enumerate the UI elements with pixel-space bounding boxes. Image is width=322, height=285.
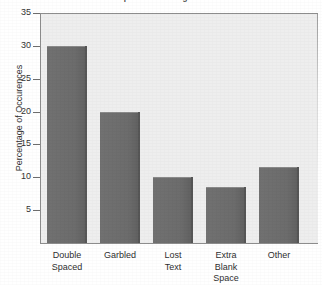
x-tick-label-line: Double: [39, 250, 95, 262]
y-tick-label: 15: [5, 139, 31, 148]
bar-shadow-edge: [191, 177, 193, 243]
y-tick-mark: [33, 46, 40, 47]
x-axis-line: [40, 243, 318, 244]
y-tick-mark: [33, 13, 40, 14]
bar-shadow-edge: [85, 46, 87, 243]
x-tick-label-line: Lost: [145, 250, 201, 262]
x-tick-label: LostText: [145, 250, 201, 273]
x-tick-label-line: Extra: [198, 250, 254, 262]
bar-shadow-edge: [138, 112, 140, 243]
x-tick-label-line: Space: [198, 273, 254, 285]
x-tick-label-line: Blank: [198, 262, 254, 274]
bar-face: [259, 167, 299, 243]
x-tick-label: Other: [251, 250, 307, 262]
y-tick-mark: [33, 177, 40, 178]
y-tick-label: 5: [5, 205, 31, 214]
x-tick-label: ExtraBlankSpace: [198, 250, 254, 285]
y-tick-mark: [33, 210, 40, 211]
x-tick-label: DoubleSpaced: [39, 250, 95, 273]
x-tick-label-line: Spaced: [39, 262, 95, 274]
y-tick-mark: [33, 79, 40, 80]
bar-face: [206, 187, 246, 243]
chart-title: Problems Experienced Using Electronic Ma…: [0, 0, 322, 2]
bar-lost-text: [153, 177, 193, 243]
y-tick-label: 10: [5, 172, 31, 181]
bar-face: [153, 177, 193, 243]
x-tick-label-line: Garbled: [92, 250, 148, 262]
y-tick-mark: [33, 144, 40, 145]
y-tick-label: 30: [5, 41, 31, 50]
bar-other: [259, 167, 299, 243]
bar-face: [47, 46, 87, 243]
x-tick-label-line: Text: [145, 262, 201, 274]
y-tick-label: 25: [5, 74, 31, 83]
x-tick-label-line: Other: [251, 250, 307, 262]
plot-right-border: [317, 14, 318, 243]
bar-face: [100, 112, 140, 243]
y-tick-mark: [33, 112, 40, 113]
bar-double-spaced: [47, 46, 87, 243]
y-tick-label: 20: [5, 107, 31, 116]
x-tick-label: Garbled: [92, 250, 148, 262]
bar-shadow-edge: [244, 187, 246, 243]
bar-garbled: [100, 112, 140, 243]
bar-chart-figure: Problems Experienced Using Electronic Ma…: [0, 0, 322, 285]
bar-extra-blank-space: [206, 187, 246, 243]
bar-shadow-edge: [297, 167, 299, 243]
y-tick-label: 35: [5, 8, 31, 17]
